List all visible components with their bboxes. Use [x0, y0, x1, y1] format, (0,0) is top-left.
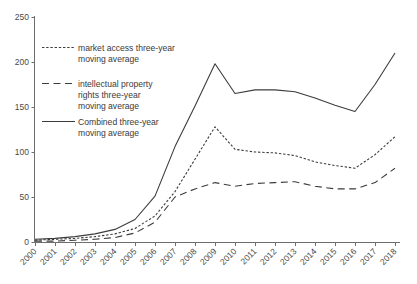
legend-label: intellectual property — [78, 79, 153, 89]
x-tick-label: 2002 — [58, 246, 79, 267]
legend-label: moving average — [78, 128, 139, 138]
x-tick-label: 2016 — [338, 246, 359, 267]
x-tick-label: 2013 — [278, 246, 299, 267]
x-axis: 2000200120022003200420052006200720082009… — [18, 243, 400, 267]
legend-label: Combined three-year — [78, 117, 159, 127]
x-tick-label: 2001 — [38, 246, 59, 267]
legend-label: moving average — [78, 101, 139, 111]
line-chart: 050100150200250 200020012002200320042005… — [0, 0, 417, 284]
x-tick-label: 2011 — [238, 246, 258, 266]
y-tick-label: 250 — [15, 12, 29, 22]
y-tick-group: 050100150200250 — [15, 12, 35, 247]
y-tick-label: 150 — [15, 102, 29, 112]
x-tick-label: 2004 — [98, 246, 119, 267]
y-tick-label: 100 — [15, 147, 29, 157]
y-tick-label: 200 — [15, 57, 29, 67]
legend-label: rights three-year — [78, 90, 141, 100]
series-line-market-access — [35, 127, 395, 240]
x-tick-label: 2012 — [258, 246, 279, 267]
series-line-ip-rights — [35, 168, 395, 241]
x-tick-label: 2009 — [198, 246, 219, 267]
x-tick-label: 2017 — [358, 246, 379, 267]
x-tick-label: 2006 — [138, 246, 159, 267]
x-tick-label: 2003 — [78, 246, 99, 267]
x-tick-label: 2018 — [378, 246, 399, 267]
y-tick-label: 0 — [24, 237, 29, 247]
x-tick-label: 2010 — [218, 246, 239, 267]
x-tick-label: 2008 — [178, 246, 199, 267]
y-tick-label: 50 — [20, 192, 30, 202]
x-tick-label: 2000 — [18, 246, 39, 267]
x-tick-group: 2000200120022003200420052006200720082009… — [18, 243, 399, 267]
chart-legend: market access three-yearmoving averagein… — [42, 43, 175, 138]
chart-container: 050100150200250 200020012002200320042005… — [0, 0, 417, 284]
y-axis: 050100150200250 — [15, 12, 35, 247]
x-tick-label: 2005 — [118, 246, 139, 267]
x-tick-label: 2007 — [158, 246, 179, 267]
x-tick-label: 2015 — [318, 246, 339, 267]
x-tick-label: 2014 — [298, 246, 319, 267]
legend-label: moving average — [78, 54, 139, 64]
legend-label: market access three-year — [78, 43, 175, 53]
